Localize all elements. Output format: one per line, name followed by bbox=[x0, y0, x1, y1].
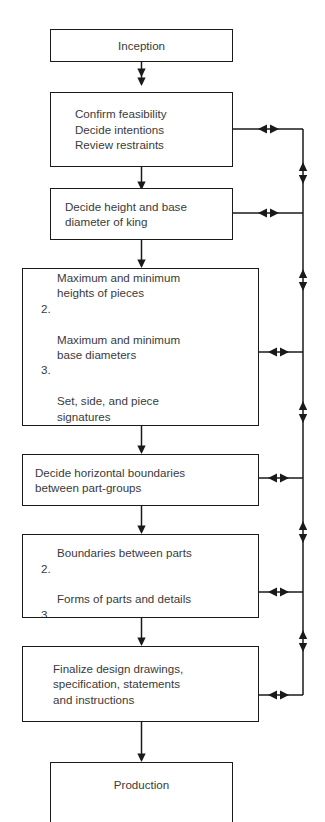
node-confirm-line-1: Decide intentions bbox=[75, 122, 224, 137]
list-item: 1. Maximum and minimum heights of pieces bbox=[57, 268, 250, 301]
node-finalize-line-1: specification, statements bbox=[53, 676, 250, 691]
node-confirm-feasibility[interactable]: Confirm feasibility Decide intentions Re… bbox=[50, 92, 233, 167]
list-item: 3. Decoration bbox=[57, 607, 250, 618]
node-king-line-1: diameter of king bbox=[65, 214, 224, 229]
list-item-number: 2. bbox=[41, 301, 51, 316]
flowchart-canvas: Inception Confirm feasibility Decide int… bbox=[0, 0, 325, 822]
feedback-stub-arrowheads bbox=[258, 125, 289, 700]
node-horiz-line-1: between part-groups bbox=[35, 480, 250, 495]
node-horiz-line-0: Decide horizontal boundaries bbox=[35, 465, 250, 480]
node-production[interactable]: Production bbox=[50, 762, 233, 822]
node-inception[interactable]: Inception bbox=[50, 29, 233, 62]
list-item-text: Maximum and minimum base diameters bbox=[57, 333, 180, 361]
node-confirm-line-0: Confirm feasibility bbox=[75, 106, 224, 121]
node-finalize-line-2: and instructions bbox=[53, 692, 250, 707]
node-finalize-design[interactable]: Finalize design drawings, specification,… bbox=[22, 646, 259, 722]
list-item-text: Set, side, and piece signatures bbox=[57, 394, 159, 422]
list-item-text: Forms of parts and details bbox=[57, 592, 191, 605]
list-item-text: Maximum and minimum heights of pieces bbox=[57, 271, 180, 299]
list-item: 1. Boundaries between parts bbox=[57, 534, 250, 561]
node-king-line-0: Decide height and base bbox=[65, 199, 224, 214]
node-inception-line-0: Inception bbox=[57, 38, 226, 53]
list-item-number: 3. bbox=[41, 607, 51, 618]
node-finalize-line-0: Finalize design drawings, bbox=[53, 661, 250, 676]
list-item-number: 2. bbox=[41, 561, 51, 576]
node-decide-horizontal-boundaries[interactable]: Decide horizontal boundaries between par… bbox=[22, 454, 259, 506]
list-item: 2. Maximum and minimum base diameters bbox=[57, 301, 250, 363]
node-setchar-list: 1. Maximum and minimum heights of pieces… bbox=[35, 268, 250, 426]
list-item: 4. Whether to lead bbox=[57, 424, 250, 426]
list-item-number: 4. bbox=[41, 424, 51, 426]
list-item-number: 3. bbox=[41, 362, 51, 377]
node-production-line-0: Production bbox=[57, 777, 226, 792]
node-details-list: 1. Boundaries between parts 2. Forms of … bbox=[35, 534, 250, 618]
list-item-text: Boundaries between parts bbox=[57, 546, 192, 559]
node-decide-details[interactable]: Decide: 1. Boundaries between parts 2. F… bbox=[22, 534, 259, 618]
node-confirm-line-2: Review restraints bbox=[75, 137, 224, 152]
node-decide-set-characteristics[interactable]: Decide set characteristics: 1. Maximum a… bbox=[22, 268, 259, 426]
list-item: 3. Set, side, and piece signatures bbox=[57, 362, 250, 424]
node-decide-king-dimensions[interactable]: Decide height and base diameter of king bbox=[50, 188, 233, 240]
list-item: 2. Forms of parts and details bbox=[57, 561, 250, 607]
